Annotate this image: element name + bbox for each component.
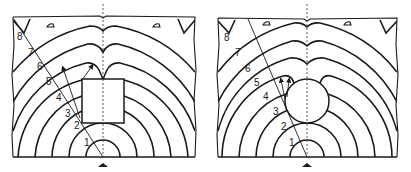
source-icon: [98, 163, 108, 167]
wavefront-label: 6: [37, 61, 43, 72]
wavefront-label: 4: [56, 92, 62, 103]
wavefront-label: 6: [245, 63, 251, 74]
surface-blob: [263, 22, 270, 25]
source-icon: [302, 163, 312, 167]
wavefront-label: 2: [74, 120, 80, 131]
corner-fragment: [380, 20, 397, 33]
wavefront-label: 8: [17, 31, 23, 42]
surface-blob: [153, 24, 160, 27]
left-panel: 1 2 3 4 5 6 7 8: [12, 4, 196, 167]
wavefront-label: 7: [235, 47, 241, 58]
wavefront-label: 3: [65, 108, 71, 119]
wavefront-label: 1: [84, 137, 90, 148]
surface-blob: [344, 22, 351, 25]
corner-fragment: [178, 19, 195, 33]
wavefront-label: 1: [289, 137, 295, 148]
wavefront-label: 4: [263, 91, 269, 102]
wavefront-label: 2: [281, 121, 287, 132]
diffraction-arrow: [82, 66, 92, 80]
wavefront-label: 7: [28, 47, 34, 58]
wavefront-diagram: 1 2 3 4 5 6 7 8: [0, 0, 411, 172]
wavefront-label: 3: [273, 106, 279, 117]
surface-blob: [47, 24, 54, 27]
wavefront-label: 8: [224, 32, 230, 43]
right-panel: 1 2 3 4 5 6 7 8: [217, 4, 398, 167]
wavefront-label: 5: [46, 76, 52, 87]
wavefront-label: 5: [254, 77, 260, 88]
